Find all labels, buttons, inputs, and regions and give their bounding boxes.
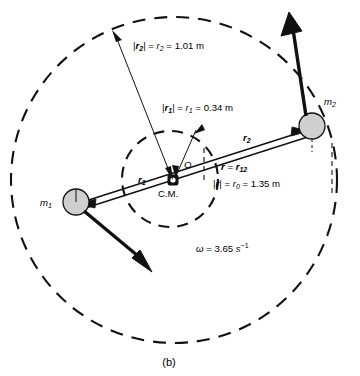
label-r1-magnitude: |r1| = r1 = 0.34 m <box>162 102 233 114</box>
label-angular-velocity: ω = 3.65 s−1 <box>196 242 249 254</box>
label-r0-bar-close: | = <box>219 178 232 189</box>
label-r-sep-vec2-sub: 12 <box>239 166 247 173</box>
label-mass-m2: m2 <box>324 96 336 108</box>
figure-container: |r2| = r2 = 1.01 m |r1| = r1 = 0.34 m r2… <box>0 0 360 376</box>
velocity-arrow-m1 <box>84 211 152 272</box>
label-r2-unit: m <box>196 40 204 51</box>
label-r1-value: 0.34 <box>204 102 223 113</box>
label-r1-bar-close: | = <box>172 102 185 113</box>
velocity-arrow-m2 <box>281 12 306 116</box>
label-r2-value: 1.01 <box>175 40 194 51</box>
label-m1-sub: 1 <box>48 202 52 209</box>
label-r-sep-eq: = <box>225 161 236 172</box>
label-r0-eq: = <box>240 178 251 189</box>
label-origin-O: O <box>184 159 192 170</box>
figure-caption: (b) <box>162 356 175 368</box>
label-m1-symbol: m <box>40 197 48 208</box>
label-m2-symbol: m <box>324 96 332 107</box>
label-r1-unit: m <box>225 102 233 113</box>
label-vector-r1: r1 <box>138 174 146 186</box>
label-omega-eq: = <box>203 243 214 254</box>
label-vector-r2-sub: 2 <box>246 137 251 144</box>
label-r2-magnitude: |r2| = r2 = 1.01 m <box>133 40 204 52</box>
label-r-separation: r = r12 <box>221 161 247 173</box>
label-mass-m1: m1 <box>40 197 52 209</box>
label-r1-eq: = <box>193 102 204 113</box>
label-vector-r2: r2 <box>243 132 251 144</box>
connecting-rod <box>73 129 314 211</box>
label-r0-unit: m <box>272 178 280 189</box>
label-omega-exponent: −1 <box>241 242 249 249</box>
label-r0-magnitude: |r| = r0 = 1.35 m <box>213 178 280 190</box>
label-center-of-mass: C.M. <box>158 188 178 199</box>
mass-m2-body <box>299 113 325 139</box>
two-body-rotation-diagram: |r2| = r2 = 1.01 m |r1| = r1 = 0.34 m r2… <box>0 0 360 376</box>
label-vector-r1-sub: 1 <box>142 179 146 186</box>
label-r0-value: 1.35 <box>251 178 270 189</box>
label-r2-bar-close: | = <box>143 40 156 51</box>
label-omega-value: 3.65 <box>214 243 233 254</box>
label-m2-sub: 2 <box>331 101 336 108</box>
label-r2-eq: = <box>164 40 175 51</box>
